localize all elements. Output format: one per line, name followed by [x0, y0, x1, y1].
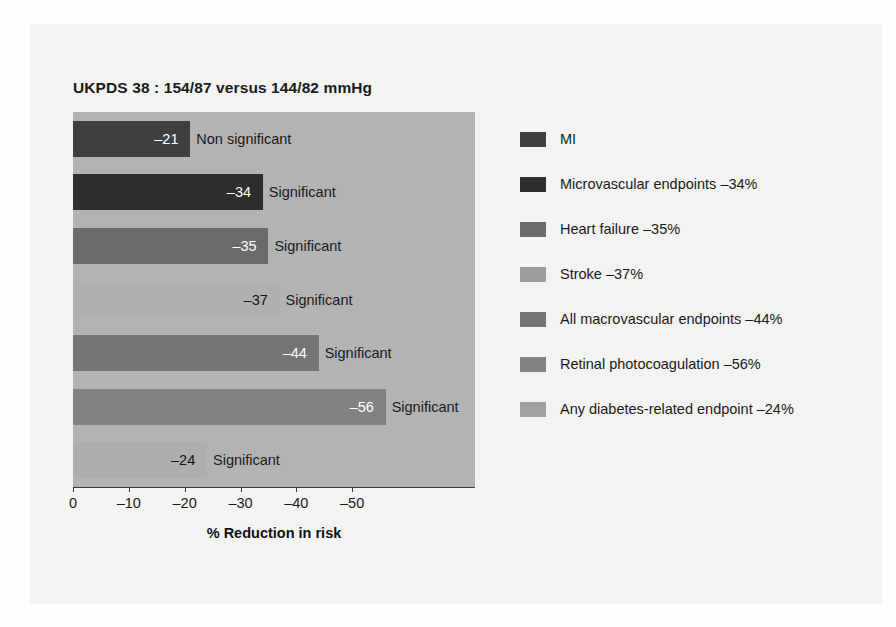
bar-value-label: –21 [154, 131, 178, 147]
legend-label: Any diabetes-related endpoint –24% [560, 401, 794, 417]
x-axis-tick-label: –10 [117, 495, 141, 511]
x-axis-tick-label: 0 [69, 495, 77, 511]
x-axis-label: % Reduction in risk [73, 525, 475, 541]
legend-item: Microvascular endpoints –34% [520, 175, 757, 193]
legend-label: All macrovascular endpoints –44% [560, 311, 782, 327]
legend-swatch [520, 402, 546, 417]
bar-row: –34Significant [73, 174, 475, 210]
bar-row: –35Significant [73, 228, 475, 264]
bar-row: –21Non significant [73, 121, 475, 157]
legend-item: All macrovascular endpoints –44% [520, 310, 782, 328]
legend-item: Stroke –37% [520, 265, 643, 283]
x-axis-line [73, 487, 475, 488]
legend-swatch [520, 312, 546, 327]
legend-swatch [520, 132, 546, 147]
legend-item: MI [520, 130, 576, 148]
bar-value-label: –34 [227, 184, 251, 200]
bar-row: –24Significant [73, 442, 475, 478]
legend-label: Microvascular endpoints –34% [560, 176, 757, 192]
bar-significance-label: Significant [286, 292, 353, 308]
bar-significance-label: Significant [392, 399, 459, 415]
x-axis-tick [296, 487, 297, 492]
legend-item: Any diabetes-related endpoint –24% [520, 400, 794, 418]
bar-value-label: –37 [244, 292, 268, 308]
bar-value-label: –35 [232, 238, 256, 254]
legend-swatch [520, 357, 546, 372]
x-axis-tick [129, 487, 130, 492]
bar-value-label: –56 [350, 399, 374, 415]
x-axis-tick-label: –40 [284, 495, 308, 511]
bar-value-label: –24 [171, 452, 195, 468]
legend-swatch [520, 222, 546, 237]
bar-significance-label: Significant [269, 184, 336, 200]
x-axis-tick-label: –20 [173, 495, 197, 511]
legend-label: Stroke –37% [560, 266, 643, 282]
x-axis-tick [352, 487, 353, 492]
figure-root: UKPDS 38 : 154/87 versus 144/82 mmHg –21… [0, 0, 896, 627]
bar-significance-label: Significant [213, 452, 280, 468]
plot-area: –21Non significant–34Significant–35Signi… [73, 112, 475, 487]
legend-label: Heart failure –35% [560, 221, 680, 237]
x-axis-tick-label: –30 [228, 495, 252, 511]
x-axis-tick [241, 487, 242, 492]
bar-significance-label: Non significant [196, 131, 291, 147]
legend-label: Retinal photocoagulation –56% [560, 356, 761, 372]
bar-significance-label: Significant [325, 345, 392, 361]
legend-swatch [520, 177, 546, 192]
legend-item: Retinal photocoagulation –56% [520, 355, 761, 373]
bar-row: –56Significant [73, 389, 475, 425]
bar-value-label: –44 [283, 345, 307, 361]
page-title: UKPDS 38 : 154/87 versus 144/82 mmHg [73, 79, 372, 97]
x-axis-tick [73, 487, 74, 492]
legend-label: MI [560, 131, 576, 147]
bar-significance-label: Significant [274, 238, 341, 254]
legend-item: Heart failure –35% [520, 220, 680, 238]
bar-row: –44Significant [73, 335, 475, 371]
legend-swatch [520, 267, 546, 282]
x-axis-tick-label: –50 [340, 495, 364, 511]
bar-row: –37Significant [73, 282, 475, 318]
x-axis-tick [185, 487, 186, 492]
bar [73, 389, 386, 425]
